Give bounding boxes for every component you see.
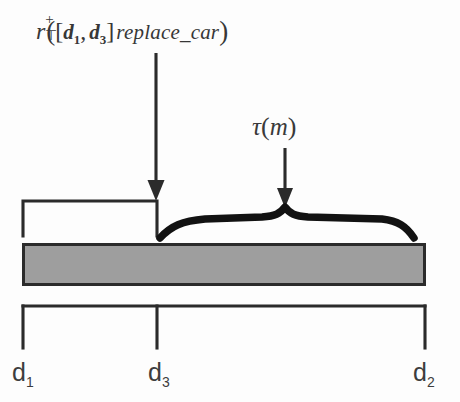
formula-label: r + ⊤ ( [ d1 , d3 ] replace_car ) [36, 17, 228, 46]
axis-label-d3: d3 [148, 360, 170, 389]
timeline-bar-rect [24, 245, 425, 285]
curly-brace-tau-m [160, 207, 414, 238]
tau-open-paren: ( [261, 112, 270, 141]
formula-r: r [36, 18, 45, 44]
tau-close-paren: ) [288, 112, 297, 141]
axis-scale [23, 306, 425, 348]
axis-label-d3-index: 3 [162, 374, 170, 390]
tau-label: τ(m) [252, 114, 296, 140]
formula-action: replace_car [116, 22, 219, 43]
axis-label-d2-base: d [413, 358, 427, 386]
formula-interval-start-base: d [63, 20, 74, 44]
axis-label-d1-index: 1 [26, 374, 34, 390]
axis-label-d2: d2 [413, 360, 435, 389]
bracket-path [23, 201, 157, 236]
timeline-bar [24, 245, 425, 285]
axis-label-d1-base: d [12, 358, 26, 386]
axis-label-d2-index: 2 [427, 374, 435, 390]
arrow-head [148, 180, 165, 201]
interval-bracket-d1-d3 [23, 201, 157, 236]
formula-close-paren: ) [219, 18, 228, 45]
axis-label-d3-base: d [148, 358, 162, 386]
tau-argument: m [270, 113, 288, 140]
figure-canvas: r + ⊤ ( [ d1 , d3 ] replace_car ) τ(m) d… [0, 0, 460, 402]
formula-open-paren: ( [46, 18, 55, 45]
tau-symbol: τ [252, 113, 261, 140]
arrow-tau-to-brace [277, 148, 293, 208]
arrow-formula-to-bracket [148, 53, 165, 201]
formula-interval-start: d1 [63, 22, 80, 46]
formula-base-symbol: r + ⊤ [36, 19, 45, 43]
formula-close-bracket: ] [106, 19, 114, 43]
axis-label-d1: d1 [12, 360, 34, 389]
diagram-graphics [0, 0, 460, 402]
formula-interval-end-base: d [89, 20, 100, 44]
formula-comma: , [80, 19, 86, 43]
formula-interval-end: d3 [89, 22, 106, 46]
brace-path [160, 207, 414, 238]
